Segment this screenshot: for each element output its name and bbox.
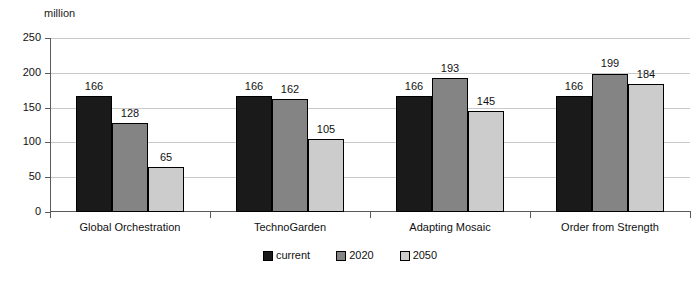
legend-item[interactable]: 2050 xyxy=(400,250,437,261)
x-axis-tick xyxy=(210,212,211,218)
bar-value-label: 193 xyxy=(422,63,478,74)
bar xyxy=(628,84,664,212)
legend-swatch-icon xyxy=(263,251,273,261)
legend-item[interactable]: current xyxy=(263,250,310,261)
bar-value-label: 166 xyxy=(386,81,442,92)
legend-item[interactable]: 2020 xyxy=(336,250,373,261)
chart-legend: current20202050 xyxy=(0,250,700,261)
legend-label: current xyxy=(276,250,310,261)
bar-chart: million 050100150200250 1661286516616210… xyxy=(0,0,700,282)
bar-value-label: 199 xyxy=(582,58,638,69)
y-axis-tick-label: 0 xyxy=(0,206,41,217)
legend-label: 2050 xyxy=(413,250,437,261)
bar xyxy=(396,96,432,212)
x-axis-tick xyxy=(370,212,371,218)
y-axis-tick-label: 200 xyxy=(0,67,41,78)
x-axis-category-label: Order from Strength xyxy=(530,221,690,234)
bar xyxy=(148,167,184,212)
legend-swatch-icon xyxy=(336,251,346,261)
y-axis-unit-label: million xyxy=(44,7,75,20)
bar xyxy=(272,99,308,212)
x-axis-category-label: Global Orchestration xyxy=(50,221,210,234)
bar-value-label: 166 xyxy=(66,81,122,92)
bar xyxy=(592,74,628,213)
legend-label: 2020 xyxy=(349,250,373,261)
bar-value-label: 105 xyxy=(298,124,354,135)
bar xyxy=(468,111,504,212)
y-axis-tick-label: 100 xyxy=(0,136,41,147)
bar-value-label: 128 xyxy=(102,108,158,119)
bar-value-label: 65 xyxy=(138,152,194,163)
x-axis-tick xyxy=(690,212,691,218)
x-axis-category-label: Adapting Mosaic xyxy=(370,221,530,234)
bar xyxy=(556,96,592,212)
bar-value-label: 184 xyxy=(618,69,674,80)
bar-value-label: 162 xyxy=(262,84,318,95)
y-axis-tick-label: 50 xyxy=(0,171,41,182)
bar-value-label: 145 xyxy=(458,96,514,107)
y-axis-tick-label: 150 xyxy=(0,102,41,113)
x-axis-tick xyxy=(530,212,531,218)
legend-swatch-icon xyxy=(400,251,410,261)
x-axis-category-label: TechnoGarden xyxy=(210,221,370,234)
bar xyxy=(308,139,344,212)
bar xyxy=(236,96,272,212)
bar-value-label: 166 xyxy=(546,81,602,92)
bar xyxy=(112,123,148,212)
y-axis-tick-label: 250 xyxy=(0,32,41,43)
x-axis-tick xyxy=(50,212,51,218)
